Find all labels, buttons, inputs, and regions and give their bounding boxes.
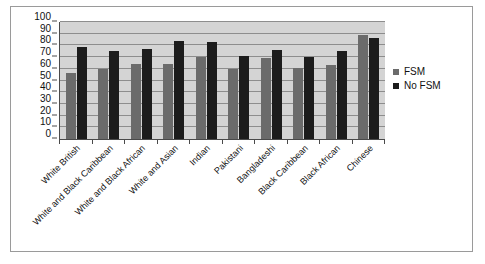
plot-area	[59, 22, 385, 140]
y-axis: 0102030405060708090100	[11, 22, 57, 139]
y-axis-tick-label: 40	[40, 82, 51, 92]
bar-group	[353, 22, 386, 139]
bar-no-fsm	[272, 50, 282, 139]
bar-fsm	[131, 64, 141, 139]
bar-no-fsm	[369, 38, 379, 139]
bar-no-fsm	[109, 51, 119, 139]
bar-group	[93, 22, 126, 139]
y-axis-tick-mark	[52, 67, 57, 68]
bar-no-fsm	[207, 42, 217, 139]
y-axis-tick-label: 20	[40, 106, 51, 116]
bar-fsm	[98, 69, 108, 139]
y-axis-tick-label: 90	[40, 24, 51, 34]
bar-no-fsm	[337, 51, 347, 139]
y-axis-tick-mark	[52, 44, 57, 45]
y-axis-tick-mark	[52, 126, 57, 127]
bar-fsm	[326, 65, 336, 139]
bar-fsm	[358, 35, 368, 139]
legend-label-no-fsm: No FSM	[404, 81, 441, 91]
bar-group	[190, 22, 223, 139]
bar-no-fsm	[239, 56, 249, 139]
y-axis-tick-mark	[52, 114, 57, 115]
bar-group	[320, 22, 353, 139]
bar-no-fsm	[77, 47, 87, 139]
legend-label-fsm: FSM	[404, 67, 425, 77]
bar-group	[125, 22, 158, 139]
y-axis-tick-mark	[52, 56, 57, 57]
bar-groups	[60, 22, 385, 139]
y-axis-tick-mark	[52, 91, 57, 92]
bar-group	[288, 22, 321, 139]
y-axis-tick-mark	[52, 138, 57, 139]
legend-swatch-no-fsm	[393, 83, 399, 89]
legend-item-no-fsm: No FSM	[393, 79, 468, 93]
y-axis-tick-mark	[52, 32, 57, 33]
y-axis-tick-label: 100	[34, 12, 51, 22]
y-axis-tick-label: 30	[40, 94, 51, 104]
bar-group	[158, 22, 191, 139]
y-axis-tick-label: 80	[40, 35, 51, 45]
bar-no-fsm	[142, 49, 152, 139]
bar-group	[60, 22, 93, 139]
y-axis-tick-mark	[52, 79, 57, 80]
bar-group	[223, 22, 256, 139]
legend-swatch-fsm	[393, 69, 399, 75]
bar-no-fsm	[174, 41, 184, 139]
x-axis-labels: White BritishWhite and Black CaribbeanWh…	[59, 143, 399, 223]
bar-fsm	[293, 68, 303, 139]
bar-fsm	[228, 69, 238, 139]
y-axis-tick-label: 10	[40, 117, 51, 127]
bar-fsm	[261, 58, 271, 139]
y-axis-tick-mark	[52, 102, 57, 103]
bar-no-fsm	[304, 57, 314, 139]
bar-fsm	[163, 64, 173, 139]
y-axis-tick-label: 50	[40, 71, 51, 81]
chart-figure: 0102030405060708090100 White BritishWhit…	[10, 6, 473, 252]
y-axis-tick-label: 0	[45, 129, 51, 139]
legend-item-fsm: FSM	[393, 65, 468, 79]
bar-fsm	[196, 57, 206, 139]
y-axis-tick-label: 60	[40, 59, 51, 69]
y-axis-tick-label: 70	[40, 47, 51, 57]
chart-legend: FSM No FSM	[393, 65, 468, 93]
bar-fsm	[66, 73, 76, 139]
y-axis-tick-mark	[52, 21, 57, 22]
bar-group	[255, 22, 288, 139]
